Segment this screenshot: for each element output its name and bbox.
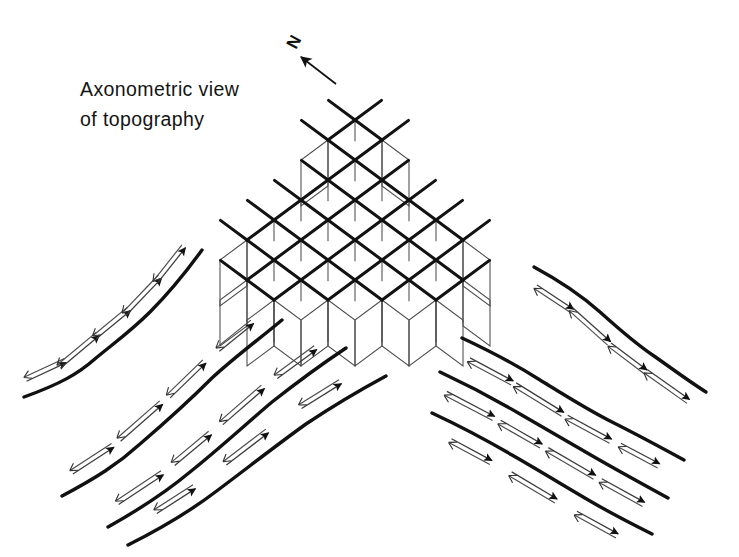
topography-diagram: Axonometric view of topography N [0,0,739,557]
caption-line-2: of topography [80,108,204,130]
figure-root: Axonometric view of topography N [0,0,739,557]
caption-line-1: Axonometric view [80,78,240,100]
